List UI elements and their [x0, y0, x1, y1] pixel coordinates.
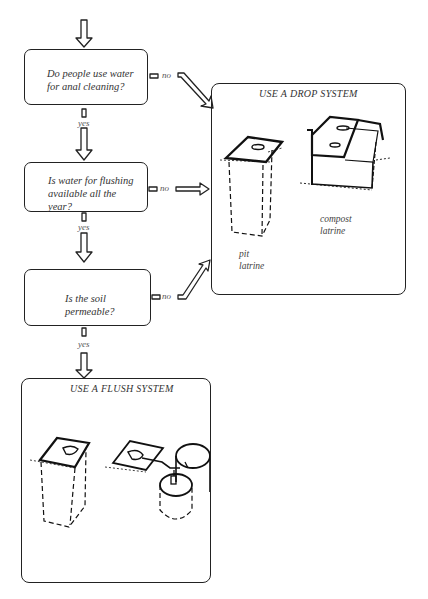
pit-latrine-caption: pit latrine — [239, 248, 264, 272]
flush-system-panel — [21, 378, 211, 583]
yes-stub-2 — [82, 213, 86, 221]
flush-system-title: USE A FLUSH SYSTEM — [70, 383, 174, 394]
no-stub-3 — [152, 295, 160, 299]
yes-arrow-1 — [76, 128, 92, 160]
question-line: permeable? — [65, 305, 115, 318]
no-arrow-3 — [178, 260, 210, 299]
no-label: no — [162, 70, 171, 80]
entry-down-arrow — [76, 20, 92, 47]
caption-line: latrine — [320, 225, 352, 237]
question-line: Is the soil — [65, 292, 115, 305]
drop-system-title: USE A DROP SYSTEM — [259, 88, 358, 99]
no-arrow-1 — [178, 73, 213, 108]
question-text: Do people use water for anal cleaning? — [47, 67, 134, 93]
no-label: no — [162, 291, 171, 301]
yes-label: yes — [78, 118, 90, 128]
no-stub-1 — [150, 74, 158, 78]
compost-latrine-caption: compost latrine — [320, 213, 352, 237]
yes-label: yes — [78, 222, 90, 232]
question-text: Is water for flushing available all the … — [48, 174, 133, 213]
yes-stub-3 — [82, 328, 86, 336]
yes-arrow-3 — [76, 353, 92, 378]
no-arrow-2 — [176, 183, 209, 195]
question-text: Is the soil permeable? — [65, 292, 115, 318]
caption-line: compost — [320, 213, 352, 225]
question-line: for anal cleaning? — [47, 80, 134, 93]
caption-line: pit — [239, 248, 264, 260]
no-label: no — [160, 183, 169, 193]
question-line: Do people use water — [47, 67, 134, 80]
yes-label: yes — [78, 339, 90, 349]
question-line: year? — [48, 200, 133, 213]
yes-stub-1 — [82, 109, 86, 117]
caption-line: latrine — [239, 260, 264, 272]
question-line: Is water for flushing — [48, 174, 133, 187]
no-stub-2 — [149, 187, 157, 191]
yes-arrow-2 — [76, 233, 92, 262]
question-line: available all the — [48, 187, 133, 200]
